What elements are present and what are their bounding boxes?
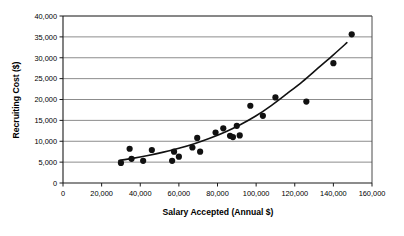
data-point [197,149,203,155]
x-tick-label: 0 [61,189,65,198]
data-point [272,94,278,100]
data-point [247,103,253,109]
data-point [169,158,175,164]
data-point [140,158,146,164]
data-point [176,154,182,160]
x-tick-label: 40,000 [129,189,152,198]
y-tick-label: 0 [53,179,57,188]
y-tick-label: 35,000 [34,33,57,42]
x-axis-tick-labels: 020,00040,00060,00080,000100,000120,0001… [61,189,385,198]
recruiting-cost-scatter-chart: 020,00040,00060,00080,000100,000120,0001… [0,0,404,236]
y-tick-label: 40,000 [34,12,57,21]
x-tick-label: 100,000 [243,189,270,198]
x-tick-label: 160,000 [359,189,386,198]
data-point [149,147,155,153]
data-point [330,60,336,66]
data-point [118,160,124,166]
data-point [303,98,309,104]
data-point [237,132,243,138]
data-point [127,146,133,152]
gridlines [63,16,372,162]
y-tick-label: 20,000 [34,95,57,104]
chart-canvas: 020,00040,00060,00080,000100,000120,0001… [0,0,404,236]
y-tick-label: 30,000 [34,54,57,63]
data-point [189,144,195,150]
y-tick-label: 5,000 [39,158,58,167]
data-points [118,31,355,166]
trend-line [119,43,347,161]
x-tick-label: 60,000 [168,189,191,198]
x-tick-label: 80,000 [206,189,229,198]
data-point [128,156,134,162]
x-tick-label: 140,000 [320,189,347,198]
x-tick-label: 120,000 [281,189,308,198]
data-point [212,129,218,135]
y-tick-label: 15,000 [34,116,57,125]
y-tick-label: 25,000 [34,74,57,83]
y-tick-label: 10,000 [34,137,57,146]
data-point [171,149,177,155]
data-point [349,31,355,37]
x-axis-title: Salary Accepted (Annual $) [163,207,274,217]
data-point [230,134,236,140]
data-point [194,135,200,141]
data-point [260,113,266,119]
x-tick-label: 20,000 [90,189,113,198]
y-axis-tick-labels: 05,00010,00015,00020,00025,00030,00035,0… [34,12,57,188]
data-point [234,123,240,129]
data-point [220,125,226,131]
y-axis-title: Recruiting Cost ($) [11,61,21,138]
